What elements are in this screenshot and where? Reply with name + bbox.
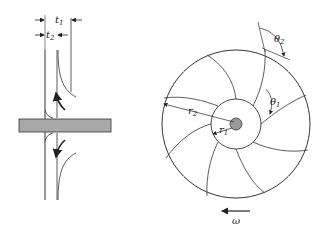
label-omega: ω	[232, 215, 240, 226]
label-r2: r2	[188, 105, 198, 118]
label-r1: r1	[219, 124, 228, 137]
front-view: r2 r1 θ1 θ2 ω	[162, 22, 310, 226]
label-t2: t2	[46, 29, 55, 42]
side-view: t1 t2	[19, 14, 111, 200]
shaft	[19, 119, 111, 132]
label-theta2: θ2	[274, 33, 285, 46]
label-t1: t1	[55, 14, 64, 27]
impeller-diagram: t1 t2 r2 r1 θ1	[0, 0, 326, 233]
